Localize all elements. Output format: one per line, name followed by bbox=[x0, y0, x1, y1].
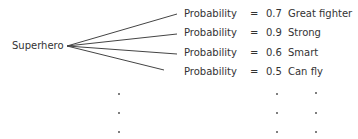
ellipsis-dot bbox=[315, 112, 317, 114]
row-term: Probability bbox=[184, 66, 237, 78]
row-value: 0.5 bbox=[266, 66, 282, 78]
connector-line-1 bbox=[67, 34, 177, 46]
ellipsis-dot bbox=[118, 131, 120, 133]
row-value: 0.7 bbox=[266, 8, 282, 20]
row-attribute: Strong bbox=[288, 27, 321, 39]
row-attribute: Great fighter bbox=[288, 8, 352, 20]
ellipsis-dot bbox=[118, 112, 120, 114]
root-node-label: Superhero bbox=[12, 40, 64, 52]
row-equals: = bbox=[250, 47, 258, 59]
ellipsis-dot bbox=[315, 92, 317, 94]
row-term: Probability bbox=[184, 27, 237, 39]
row-attribute: Can fly bbox=[288, 66, 323, 78]
connector-line-0 bbox=[67, 14, 177, 46]
row-term: Probability bbox=[184, 8, 237, 20]
row-equals: = bbox=[250, 8, 258, 20]
row-equals: = bbox=[250, 27, 258, 39]
ellipsis-dot bbox=[276, 93, 278, 95]
row-value: 0.6 bbox=[266, 47, 282, 59]
row-value: 0.9 bbox=[266, 27, 282, 39]
ellipsis-dot bbox=[315, 131, 317, 133]
row-term: Probability bbox=[184, 47, 237, 59]
row-equals: = bbox=[250, 66, 258, 78]
ellipsis-dot bbox=[276, 112, 278, 114]
ellipsis-dot bbox=[276, 131, 278, 133]
ellipsis-dot bbox=[118, 93, 120, 95]
row-attribute: Smart bbox=[288, 47, 318, 59]
superhero-probability-diagram: Superhero Probability = 0.7 Great fighte… bbox=[0, 0, 358, 139]
